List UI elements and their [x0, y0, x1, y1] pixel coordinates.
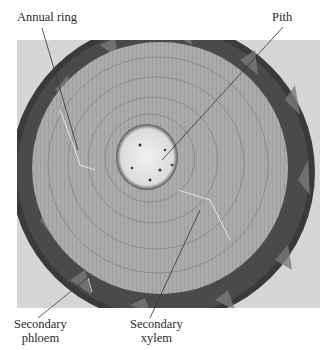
secondary-phloem-label-line1: Secondary	[14, 317, 67, 331]
secondary-phloem-label: Secondary phloem	[14, 317, 67, 345]
secondary-xylem-label: Secondary xylem	[130, 317, 183, 345]
pith-label: Pith	[272, 10, 292, 24]
annual-ring-label: Annual ring	[17, 10, 77, 24]
secondary-phloem-label-line2: phloem	[14, 331, 67, 345]
pith	[116, 124, 178, 190]
secondary-xylem-label-line2: xylem	[130, 331, 183, 345]
stem-diagram	[0, 0, 334, 350]
secondary-xylem-label-line1: Secondary	[130, 317, 183, 331]
